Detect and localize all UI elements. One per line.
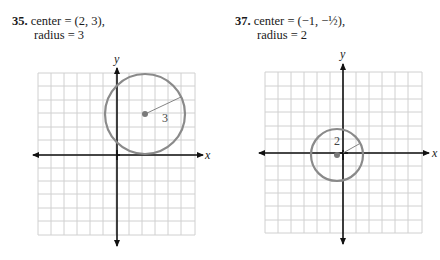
radius-label-37: 2: [334, 134, 340, 148]
y-axis-label-35: y: [113, 52, 120, 66]
x-axis-label-37: x: [431, 146, 438, 160]
x-axis-label-35: x: [204, 148, 211, 162]
radius-line-37: [343, 144, 359, 153]
y-axis-label-37: y: [339, 47, 346, 61]
center-dot-35: [142, 111, 148, 117]
graph-35: x y 3: [33, 52, 211, 246]
center-dot-37: [334, 152, 340, 158]
radius-label-35: 3: [162, 111, 168, 125]
graphs-canvas: x y 3 x y 2: [0, 0, 440, 260]
graph-37: x y 2: [259, 47, 438, 244]
